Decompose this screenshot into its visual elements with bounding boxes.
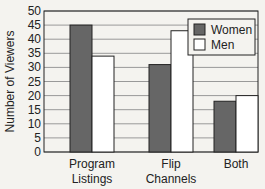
x-tick-label: Program — [69, 157, 115, 171]
legend-label: Men — [211, 38, 234, 52]
bar-women — [214, 101, 236, 152]
y-tick-label: 45 — [28, 18, 42, 32]
x-tick-label: Channels — [146, 172, 197, 186]
y-tick-label: 15 — [28, 103, 42, 117]
y-tick-label: 35 — [28, 46, 42, 60]
legend-label: Women — [211, 23, 252, 37]
y-tick-label: 0 — [34, 145, 41, 159]
x-tick-label: Both — [224, 157, 249, 171]
y-tick-label: 10 — [28, 117, 42, 131]
bar-women — [149, 65, 171, 152]
y-tick-label: 30 — [28, 60, 42, 74]
x-tick-label: Listings — [72, 172, 113, 186]
y-tick-label: 20 — [28, 89, 42, 103]
grouped-bar-chart: 05101520253035404550Number of ViewersPro… — [0, 0, 265, 189]
y-tick-label: 25 — [28, 75, 42, 89]
bar-men — [92, 56, 114, 152]
y-tick-label: 40 — [28, 32, 42, 46]
y-axis-label: Number of Viewers — [3, 31, 17, 133]
y-tick-label: 5 — [34, 131, 41, 145]
legend-swatch — [194, 24, 205, 35]
bar-women — [70, 25, 92, 152]
x-tick-label: Flip — [161, 157, 181, 171]
bar-men — [236, 96, 258, 152]
legend-swatch — [194, 39, 205, 50]
y-tick-label: 50 — [28, 4, 42, 18]
